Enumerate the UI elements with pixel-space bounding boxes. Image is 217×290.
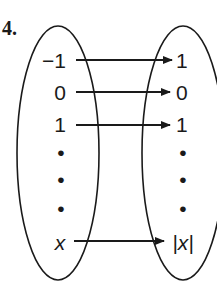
domain-item: x	[54, 231, 67, 254]
domain-dot: •	[57, 168, 64, 191]
range-item: 1	[176, 113, 188, 136]
domain-item: −1	[42, 49, 66, 72]
range-dot: •	[179, 141, 186, 164]
domain-dot: •	[57, 197, 64, 220]
range-item: 0	[176, 81, 188, 104]
domain-item: 0	[54, 81, 66, 104]
problem-number: 4.	[2, 17, 17, 39]
range-dot: •	[179, 168, 186, 191]
mapping-diagram: 4. −1 0 1 • • • x 1 0 1 • • • |x|	[0, 0, 217, 290]
domain-item: 1	[54, 113, 66, 136]
range-dot: •	[179, 197, 186, 220]
range-item: 1	[176, 49, 188, 72]
range-item: |x|	[172, 231, 193, 254]
domain-dot: •	[57, 141, 64, 164]
